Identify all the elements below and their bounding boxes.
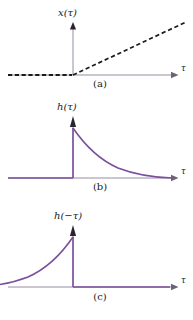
signal-label-a: x(τ) xyxy=(58,8,77,18)
signal-label-b: h(τ) xyxy=(57,102,77,112)
signal-label-c: h(−τ) xyxy=(54,211,82,221)
signal-figure: x(τ) τ (a) h(τ) τ (b) xyxy=(0,0,193,320)
horizontal-axis-arrowhead-a xyxy=(171,72,179,78)
horizontal-axis-arrowhead-b xyxy=(171,175,179,181)
panel-caption-a: (a) xyxy=(80,79,120,89)
tau-axis-label-a: τ xyxy=(181,64,186,73)
tau-axis-label-c: τ xyxy=(181,276,186,285)
panel-caption-b: (b) xyxy=(80,182,120,192)
panel-c: h(−τ) τ (c) xyxy=(0,208,193,320)
vertical-axis-arrowhead-b xyxy=(70,116,76,127)
panel-c-plot xyxy=(0,208,193,320)
panel-b: h(τ) τ (b) xyxy=(0,100,193,208)
panel-a: x(τ) τ (a) xyxy=(0,0,193,100)
exponential-rise-curve-c xyxy=(0,237,73,287)
tau-axis-label-b: τ xyxy=(181,167,186,176)
horizontal-axis-arrowhead-c xyxy=(171,284,179,290)
exponential-decay-curve-b xyxy=(73,128,172,178)
vertical-axis-arrowhead-c xyxy=(70,225,76,236)
vertical-axis-arrowhead-a xyxy=(70,22,76,30)
panel-caption-c: (c) xyxy=(80,292,120,302)
dashed-ramp-segment-a xyxy=(73,22,186,75)
